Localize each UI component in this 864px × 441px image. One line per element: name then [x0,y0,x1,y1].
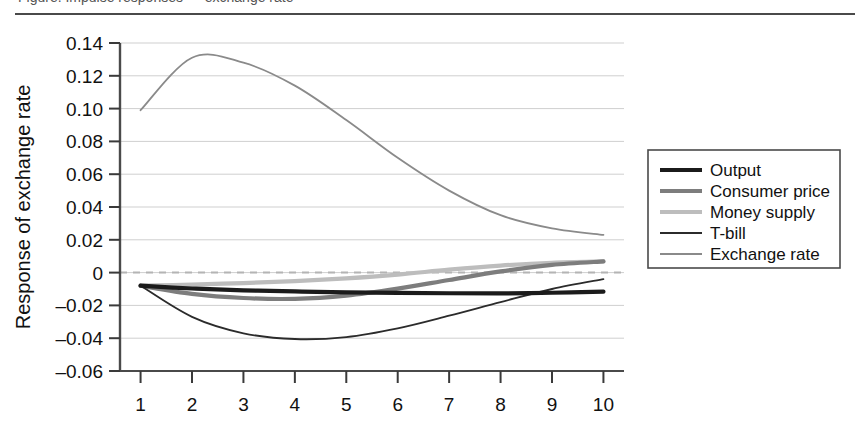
y-tick-label: 0.06 [66,164,103,185]
x-tick-label: 4 [290,394,301,415]
legend-label-t-bill: T-bill [710,224,746,243]
y-tick-label: 0 [92,263,103,284]
x-tick-label: 6 [392,394,403,415]
legend-label-exchange-rate: Exchange rate [710,245,820,264]
x-tick-label: 8 [495,394,506,415]
y-tick-label: –0.02 [55,295,103,316]
x-tick-label: 2 [187,394,198,415]
figure-caption-clipped: Figure. Impulse responses — exchange rat… [0,0,864,10]
x-tick-label: 1 [135,394,146,415]
x-axis-ticks [141,371,604,383]
y-tick-label: 0.12 [66,66,103,87]
data-series-layer [141,54,604,339]
y-tick-label: –0.04 [55,328,103,349]
x-tick-label: 9 [547,394,558,415]
y-tick-label: 0.02 [66,230,103,251]
figure-caption-text: Figure. Impulse responses — exchange rat… [18,0,293,5]
legend-label-consumer-price: Consumer price [710,182,830,201]
header-rule [15,13,855,15]
legend-label-output: Output [710,161,761,180]
y-tick-label: 0.08 [66,131,103,152]
legend: OutputConsumer priceMoney supplyT-billEx… [648,150,840,268]
x-tick-label: 3 [238,394,249,415]
x-tick-label: 10 [593,394,614,415]
y-tick-label: 0.04 [66,197,103,218]
series-line-output [141,286,604,294]
grid-lines [120,43,624,371]
y-tick-label: 0.14 [66,33,103,54]
x-tick-label: 7 [444,394,455,415]
legend-label-money-supply: Money supply [710,203,815,222]
figure-container: Figure. Impulse responses — exchange rat… [0,0,864,441]
y-tick-label: 0.10 [66,99,103,120]
x-tick-label: 5 [341,394,352,415]
x-axis-tick-labels: 12345678910 [135,394,614,415]
y-axis-title: Response of exchange rate [12,85,34,330]
series-line-exchange-rate [141,54,604,234]
y-tick-label: –0.06 [55,361,103,382]
y-axis-tick-labels: 0.140.120.100.080.060.040.020–0.02–0.04–… [55,33,103,382]
y-axis-ticks [109,43,120,371]
line-chart: 0.140.120.100.080.060.040.020–0.02–0.04–… [0,0,864,441]
